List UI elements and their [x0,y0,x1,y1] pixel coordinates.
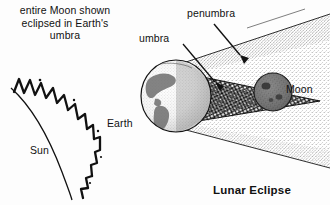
figure-caption: Lunar Eclipse [213,184,291,197]
sun-label: Sun [30,144,49,157]
earth-globe [141,60,211,132]
left-caption: entire Moon shown eclipsed in Earth's um… [6,4,124,42]
penumbra-label: penumbra [187,7,235,20]
lunar-eclipse-figure: entire Moon shown eclipsed in Earth's um… [0,0,330,205]
moon-label: Moon [286,83,313,96]
earth-label: Earth [107,117,133,130]
umbra-label: umbra [139,32,169,45]
sun-limb [11,79,102,200]
